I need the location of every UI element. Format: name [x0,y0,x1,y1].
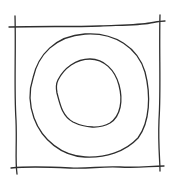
frame-right-line [159,15,160,171]
frame-top-line [9,21,165,27]
outer-circle [30,34,148,157]
sketch-canvas: Hand-drawn square frame containing two c… [0,0,175,187]
sketch-strokes [9,15,165,174]
concentric-circles-in-square-drawing [0,0,175,187]
frame-bottom-line [11,166,164,168]
inner-circle [56,59,121,127]
frame-left-line [15,16,17,174]
